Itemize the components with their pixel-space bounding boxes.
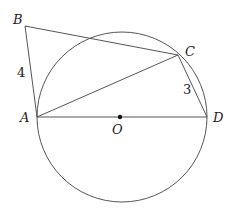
label-o: O xyxy=(112,122,123,137)
length-ab: 4 xyxy=(17,65,25,80)
segment-ac xyxy=(37,55,178,117)
length-cd: 3 xyxy=(183,82,191,97)
geometry-diagram: B A C D O 4 3 xyxy=(0,0,236,223)
center-point-o xyxy=(118,115,122,119)
label-a: A xyxy=(19,110,29,125)
label-d: D xyxy=(212,110,224,125)
segment-ab xyxy=(25,26,37,117)
segment-bc xyxy=(25,26,178,55)
label-b: B xyxy=(12,12,23,27)
label-c: C xyxy=(185,44,195,59)
